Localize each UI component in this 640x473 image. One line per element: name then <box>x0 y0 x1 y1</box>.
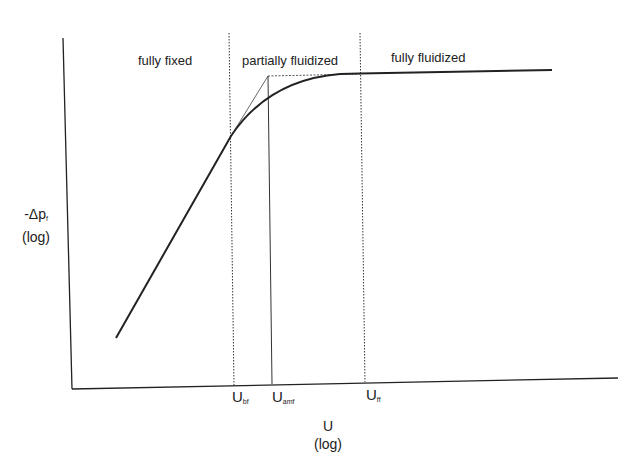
y-axis-symbol: -Δp <box>24 206 46 222</box>
y-axis <box>63 38 72 389</box>
diagram-canvas <box>0 0 640 473</box>
x-axis-scale: (log) <box>278 435 378 453</box>
y-axis-scale: (log) <box>22 228 50 246</box>
tick-u-bf: Ubf <box>232 388 249 405</box>
region-label-fully-fixed: fully fixed <box>138 53 192 68</box>
u-bf-marker <box>229 33 234 385</box>
tick-u-ff: Uff <box>366 386 381 403</box>
region-label-fully-fluidized: fully fluidized <box>391 50 465 65</box>
x-axis <box>72 378 618 389</box>
region-label-partially-fluidized: partially fluidized <box>242 53 338 68</box>
tick-u-amf: Uamf <box>272 388 295 405</box>
pressure-drop-curve <box>116 70 552 338</box>
x-axis-symbol: U <box>278 417 378 435</box>
y-axis-label: -Δpf (log) <box>22 205 50 246</box>
u-ff-marker <box>360 33 365 382</box>
u-amf-marker <box>268 76 272 384</box>
y-axis-subscript: f <box>46 215 48 222</box>
x-axis-label: U (log) <box>278 417 378 453</box>
